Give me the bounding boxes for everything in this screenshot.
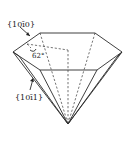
prism-face-label: {10ī0} bbox=[7, 20, 35, 29]
hidden-face-normal bbox=[27, 44, 68, 50]
angle-label: 62° bbox=[32, 52, 44, 60]
crystal-diagram: {10ī0} {10ī1} 62° bbox=[0, 0, 135, 142]
pyramid-edge bbox=[40, 70, 68, 124]
pyramid-face-label: {10ī1} bbox=[15, 93, 43, 102]
angle-arc bbox=[30, 49, 36, 51]
hexagon-top-outline bbox=[13, 33, 122, 70]
pyramid-edge bbox=[68, 57, 117, 124]
hidden-edge bbox=[68, 33, 95, 124]
pyramid-edge bbox=[68, 70, 97, 124]
pyramid-edge bbox=[19, 56, 68, 124]
